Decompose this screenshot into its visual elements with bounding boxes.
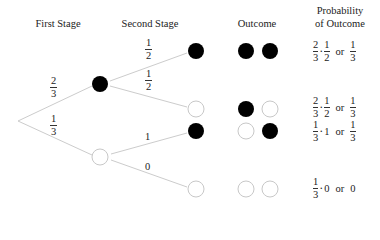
denominator: 3 — [313, 109, 318, 119]
numerator: 1 — [350, 96, 355, 106]
numerator: 2 — [50, 76, 57, 86]
denominator: 3 — [350, 133, 355, 143]
outcome-ball-black — [238, 101, 254, 117]
denominator: 2 — [145, 51, 152, 61]
denominator: 3 — [313, 53, 318, 63]
whole-number: 1 — [324, 126, 329, 137]
denominator: 2 — [324, 53, 329, 63]
multiply-dot: · — [319, 124, 323, 139]
numerator: 2 — [313, 96, 318, 106]
numerator: 1 — [145, 69, 152, 79]
denominator: 3 — [50, 89, 57, 99]
label-bb-prob: 1 2 — [145, 38, 152, 61]
denominator: 3 — [313, 133, 318, 143]
outcome-ball-white — [262, 181, 278, 197]
fraction: 13 — [350, 40, 355, 63]
second-stage-white-ball-2 — [188, 181, 204, 197]
or-text: or — [336, 46, 345, 57]
numerator: 1 — [145, 38, 152, 48]
outcome-ball-black — [262, 123, 278, 139]
fraction: 12 — [324, 96, 329, 119]
first-stage-white-ball — [92, 149, 108, 165]
fraction: 13 — [350, 96, 355, 119]
outcome-white-black — [238, 123, 278, 139]
label-bw-prob: 1 2 — [145, 69, 152, 92]
denominator: 2 — [145, 82, 152, 92]
numerator: 1 — [350, 40, 355, 50]
probability-row-3: 13 · 1 or 13 — [313, 120, 356, 143]
outcome-ball-white — [262, 101, 278, 117]
first-stage-black-ball — [92, 76, 108, 92]
outcome-ball-black — [262, 43, 278, 59]
numerator: 1 — [313, 120, 318, 130]
outcome-white-white — [238, 181, 278, 197]
probability-row-4: 13 · 0 or 0 — [313, 177, 356, 200]
denominator: 3 — [350, 109, 355, 119]
probability-row-1: 23 · 12 or 13 — [313, 40, 356, 63]
fraction: 23 — [313, 40, 318, 63]
second-stage-white-ball-1 — [188, 101, 204, 117]
probability-row-2: 23 · 12 or 13 — [313, 96, 356, 119]
label-ww-prob: 0 — [145, 161, 150, 172]
whole-number: 0 — [350, 183, 355, 194]
label-first-white-prob: 1 3 — [50, 114, 57, 137]
fraction: 13 — [313, 120, 318, 143]
second-stage-black-ball-1 — [188, 43, 204, 59]
branches — [18, 53, 187, 187]
fraction: 13 — [350, 120, 355, 143]
label-first-black-prob: 2 3 — [50, 76, 57, 99]
outcome-ball-white — [238, 181, 254, 197]
numerator: 1 — [350, 120, 355, 130]
outcome-ball-white — [238, 123, 254, 139]
multiply-dot: · — [319, 100, 323, 115]
or-text: or — [336, 126, 345, 137]
denominator: 3 — [50, 127, 57, 137]
numerator: 1 — [313, 177, 318, 187]
fraction: 12 — [324, 40, 329, 63]
denominator: 3 — [313, 190, 318, 200]
whole-number: 0 — [324, 183, 329, 194]
numerator: 1 — [324, 40, 329, 50]
or-text: or — [336, 102, 345, 113]
outcome-black-white — [238, 101, 278, 117]
multiply-dot: · — [319, 44, 323, 59]
denominator: 2 — [324, 109, 329, 119]
outcome-ball-black — [238, 43, 254, 59]
denominator: 3 — [350, 53, 355, 63]
outcome-black-black — [238, 43, 278, 59]
fraction: 13 — [313, 177, 318, 200]
numerator: 1 — [50, 114, 57, 124]
or-text: or — [336, 183, 345, 194]
second-stage-black-ball-2 — [188, 123, 204, 139]
fraction: 23 — [313, 96, 318, 119]
multiply-dot: · — [319, 181, 323, 196]
numerator: 1 — [324, 96, 329, 106]
numerator: 2 — [313, 40, 318, 50]
label-wb-prob: 1 — [145, 131, 150, 142]
